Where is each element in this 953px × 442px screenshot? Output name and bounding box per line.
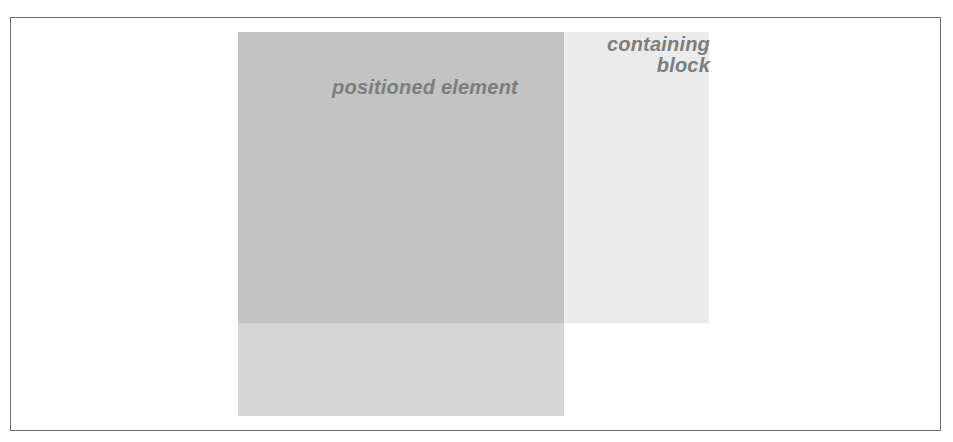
positioned-element-label: positioned element: [300, 77, 550, 98]
containing-block-label-line1: containing: [560, 34, 710, 55]
containing-block-label: containing block: [560, 34, 710, 76]
containing-block-label-line2: block: [560, 55, 710, 76]
